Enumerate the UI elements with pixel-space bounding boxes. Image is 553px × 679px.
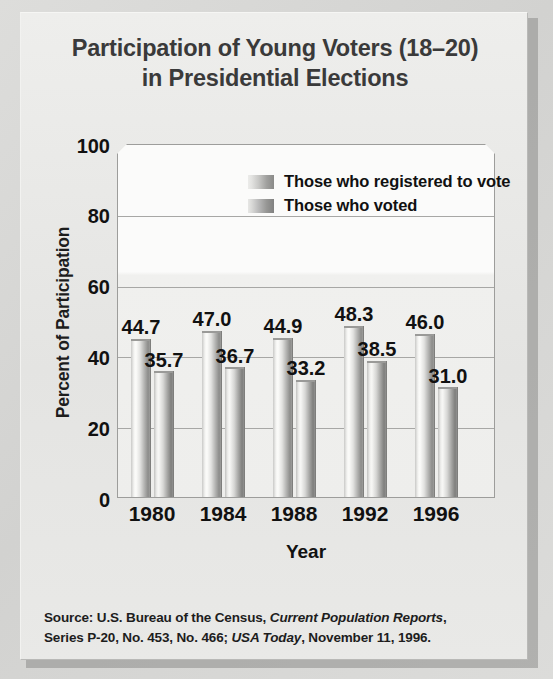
source-note: Source: U.S. Bureau of the Census, Curre… (44, 608, 514, 649)
y-tick-60: 60 (64, 277, 110, 297)
x-tick-1988: 1988 (254, 503, 334, 524)
bar-label-voted-1988: 33.2 (278, 358, 334, 378)
bar-voted-1992 (367, 361, 387, 497)
bar-cap (438, 387, 457, 389)
legend-label-registered: Those who registered to vote (284, 172, 510, 191)
bar-cap (415, 334, 434, 336)
bar-cap (296, 380, 315, 382)
bar-cap (344, 326, 363, 328)
bar-label-voted-1980: 35.7 (136, 350, 192, 370)
bar-registered-1996 (415, 334, 435, 497)
source-line-1-suffix: , (443, 610, 447, 625)
bar-label-voted-1984: 36.7 (207, 346, 263, 366)
y-tick-100: 100 (64, 136, 110, 156)
y-tick-0: 0 (64, 490, 110, 510)
x-tick-1996: 1996 (396, 503, 476, 524)
bar-cap (154, 371, 173, 373)
bar-cap (202, 331, 221, 333)
source-line-1-prefix: Source: U.S. Bureau of the Census, (44, 610, 270, 625)
x-tick-1984: 1984 (183, 503, 263, 524)
source-line-1-italic: Current Population Reports (270, 610, 443, 625)
source-line-2-italic: USA Today (231, 630, 301, 645)
registered-swatch-icon (248, 175, 274, 189)
gridline-60 (118, 287, 494, 288)
source-line-2-suffix: , November 11, 1996. (301, 630, 431, 645)
legend-item-voted: Those who voted (248, 195, 498, 216)
bar-voted-1980 (154, 371, 174, 497)
y-tick-80: 80 (64, 206, 110, 226)
y-tick-40: 40 (64, 348, 110, 368)
bar-label-registered-1984: 47.0 (184, 309, 240, 329)
source-line-1: Source: U.S. Bureau of the Census, Curre… (44, 608, 514, 628)
source-line-2-prefix: Series P-20, No. 453, No. 466; (44, 630, 231, 645)
x-tick-1980: 1980 (112, 503, 192, 524)
bar-label-registered-1980: 44.7 (113, 317, 169, 337)
bar-voted-1996 (438, 387, 458, 497)
bar-label-registered-1988: 44.9 (255, 316, 311, 336)
bar-label-voted-1996: 31.0 (420, 366, 476, 386)
chart-figure: Participation of Young Voters (18–20) in… (0, 0, 553, 679)
x-tick-1992: 1992 (325, 503, 405, 524)
y-tick-20: 20 (64, 419, 110, 439)
source-line-2: Series P-20, No. 453, No. 466; USA Today… (44, 628, 514, 648)
chart-legend: Those who registered to vote Those who v… (248, 171, 498, 219)
x-axis-label: Year (117, 541, 495, 563)
bar-voted-1988 (296, 380, 316, 498)
bar-label-registered-1992: 48.3 (326, 304, 382, 324)
legend-item-registered: Those who registered to vote (248, 171, 498, 192)
bar-voted-1984 (225, 367, 245, 497)
voted-swatch-icon (248, 199, 274, 213)
bar-cap (367, 361, 386, 363)
bar-label-registered-1996: 46.0 (397, 312, 453, 332)
bar-cap (225, 367, 244, 369)
bar-label-voted-1992: 38.5 (349, 339, 405, 359)
bar-cap (131, 339, 150, 341)
legend-label-voted: Those who voted (284, 196, 417, 215)
y-axis-ticks: 100 80 60 40 20 0 (58, 0, 110, 679)
bar-cap (273, 338, 292, 340)
